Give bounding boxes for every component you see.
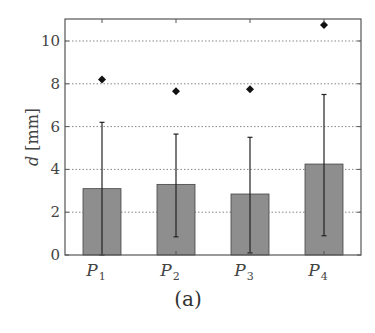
y-tick-label: 2 (50, 203, 60, 221)
y-tick-label: 10 (41, 32, 60, 50)
x-tick-label-P2: P2 (159, 260, 179, 283)
figure-caption: (a) (174, 287, 202, 311)
y-tick-label: 4 (50, 160, 60, 178)
error-bars (100, 95, 327, 256)
x-axis-ticks: P1P2P3P4 (85, 19, 327, 283)
bar-chart: 0246810 P1P2P3P4 d [mm] (a) (0, 0, 375, 333)
y-axis-label: d [mm] (23, 108, 42, 166)
y-tick-label: 6 (50, 118, 60, 136)
diamond-marker-icon (246, 85, 254, 93)
diamond-marker-icon (172, 87, 180, 95)
x-tick-label-P4: P4 (307, 260, 327, 283)
y-tick-label: 8 (50, 75, 60, 93)
diamond-marker-icon (98, 76, 106, 84)
x-tick-label-P1: P1 (85, 260, 105, 283)
y-tick-label: 0 (50, 246, 60, 264)
bars (83, 164, 343, 255)
x-tick-label-P3: P3 (233, 260, 253, 283)
